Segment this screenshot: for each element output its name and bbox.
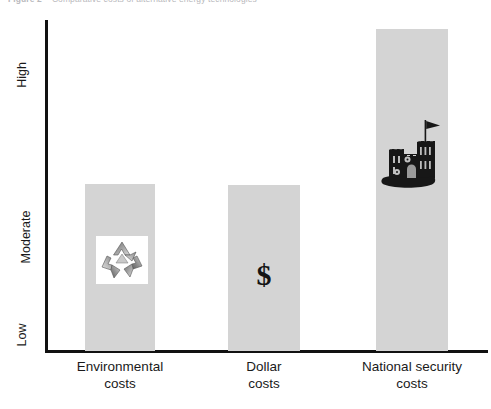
x-axis-labels: Environmental costs Dollar costs Nationa… (47, 358, 488, 406)
figure-caption-label: Figure 2 (8, 0, 42, 4)
plot-area: $ (47, 20, 488, 351)
y-axis-tick-moderate: Moderate (0, 230, 44, 244)
y-axis-tick-high: High (0, 68, 44, 82)
x-axis-label-national-security-costs-line2: costs (339, 375, 485, 392)
figure-caption: Figure 2Comparative costs of alternative… (8, 0, 478, 4)
bar-national-security-costs (376, 29, 448, 351)
x-axis-label-environmental-costs-line2: costs (55, 375, 185, 392)
y-axis-tick-high-label: High (15, 62, 29, 88)
x-axis-label-environmental-costs-line1: Environmental (55, 358, 185, 375)
figure-caption-text: Comparative costs of alternative energy … (52, 0, 257, 4)
y-axis-tick-low-label: Low (15, 324, 29, 347)
x-axis-label-dollar-costs: Dollar costs (204, 358, 324, 392)
x-axis-label-environmental-costs: Environmental costs (55, 358, 185, 392)
castle-icon (377, 116, 447, 190)
y-axis-tick-low: Low (0, 328, 44, 342)
x-axis-label-national-security-costs-line1: National security (339, 358, 485, 375)
y-axis-tick-moderate-label: Moderate (19, 211, 33, 264)
x-axis-label-dollar-costs-line2: costs (204, 375, 324, 392)
x-axis-label-national-security-costs: National security costs (339, 358, 485, 392)
bar-chart-figure: Figure 2Comparative costs of alternative… (0, 0, 491, 409)
recycle-icon (96, 236, 148, 284)
dollar-icon: $ (242, 258, 286, 292)
x-axis-label-dollar-costs-line1: Dollar (204, 358, 324, 375)
